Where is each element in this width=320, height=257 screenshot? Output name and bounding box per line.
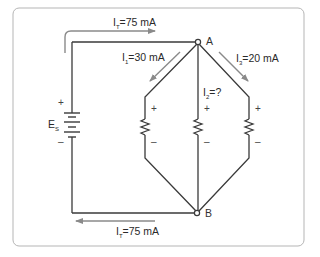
- resistor-1-minus: –: [151, 137, 157, 147]
- source-minus-sign: –: [58, 137, 64, 147]
- source-plus-sign: +: [58, 98, 64, 108]
- source-label: ES: [48, 119, 59, 130]
- resistor-3-icon: [245, 119, 253, 135]
- node-b-label: B: [205, 208, 212, 219]
- resistor-1-icon: [141, 119, 149, 135]
- resistor-2-icon: [194, 119, 202, 135]
- total-current-bottom-label: IT=75 mA: [116, 226, 159, 237]
- resistor-1-plus: +: [151, 104, 157, 114]
- node-b-icon: [194, 210, 199, 215]
- branch3-current-label: I3=20 mA: [236, 53, 279, 64]
- resistor-2-minus: –: [204, 137, 210, 147]
- battery-icon: [64, 113, 80, 137]
- node-a-label: A: [206, 36, 213, 47]
- resistor-3-plus: +: [255, 104, 261, 114]
- node-a-icon: [195, 39, 200, 44]
- total-current-top-label: IT=75 mA: [113, 17, 156, 28]
- resistor-3-minus: –: [255, 137, 261, 147]
- branch1-current-label: I1=30 mA: [122, 52, 165, 63]
- branch2-current-label: I2=?: [203, 87, 221, 98]
- resistor-2-plus: +: [204, 104, 210, 114]
